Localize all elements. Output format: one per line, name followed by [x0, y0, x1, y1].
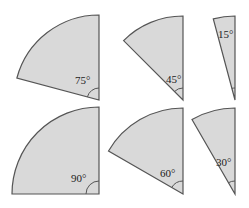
- sector-60: 60°: [109, 108, 184, 194]
- sector-30: 30°: [192, 108, 235, 194]
- angle-label-75: 75°: [75, 74, 90, 86]
- sector-90: 90°: [12, 107, 99, 194]
- sector-75: 75°: [17, 15, 99, 100]
- angle-label-45: 45°: [166, 73, 181, 85]
- angle-label-30: 30°: [216, 156, 231, 168]
- angle-label-60: 60°: [160, 167, 175, 179]
- sectors-diagram: 75° 45° 15° 90° 60° 30°: [0, 0, 249, 208]
- sector-45: 45°: [124, 16, 183, 100]
- sector-15: 15°: [213, 16, 235, 100]
- angle-label-90: 90°: [71, 172, 86, 184]
- angle-label-15: 15°: [218, 28, 233, 40]
